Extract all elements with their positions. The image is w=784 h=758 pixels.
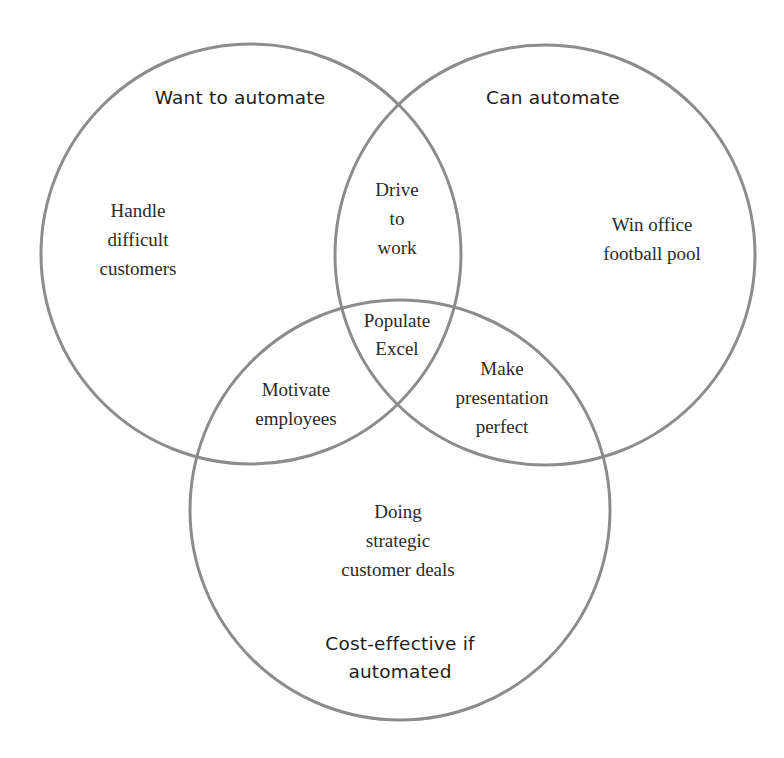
region-text: Populate	[364, 310, 431, 331]
set-label-cost-effective-line1: Cost-effective if	[325, 633, 475, 654]
region-all-three: Populate Excel	[364, 310, 431, 359]
region-text: employees	[255, 408, 336, 429]
region-text: Motivate	[262, 379, 331, 400]
region-text: Doing	[374, 501, 422, 522]
region-text: customers	[99, 258, 176, 279]
set-label-want-to-automate: Want to automate	[155, 87, 326, 108]
region-text: strategic	[366, 530, 430, 551]
region-text: Drive	[375, 179, 418, 200]
region-text: Handle	[111, 200, 166, 221]
region-text: work	[377, 237, 417, 258]
region-text: Make	[480, 358, 523, 379]
region-want-cost: Motivate employees	[255, 379, 336, 429]
region-can-cost: Make presentation perfect	[456, 358, 549, 437]
venn-diagram: Want to automate Can automate Cost-effec…	[0, 0, 784, 758]
region-want-only: Handle difficult customers	[99, 200, 176, 279]
region-can-only: Win office football pool	[603, 214, 701, 264]
region-text: perfect	[476, 416, 529, 437]
region-cost-only: Doing strategic customer deals	[341, 501, 454, 580]
set-label-can-automate: Can automate	[486, 87, 620, 108]
region-text: presentation	[456, 387, 549, 408]
region-text: Excel	[375, 338, 418, 359]
region-text: Win office	[612, 214, 693, 235]
set-label-cost-effective-line2: automated	[348, 661, 451, 682]
venn-svg: Want to automate Can automate Cost-effec…	[0, 0, 784, 758]
region-want-can: Drive to work	[375, 179, 418, 258]
region-text: customer deals	[341, 559, 454, 580]
region-text: football pool	[603, 243, 701, 264]
region-text: difficult	[108, 229, 170, 250]
region-text: to	[390, 208, 405, 229]
